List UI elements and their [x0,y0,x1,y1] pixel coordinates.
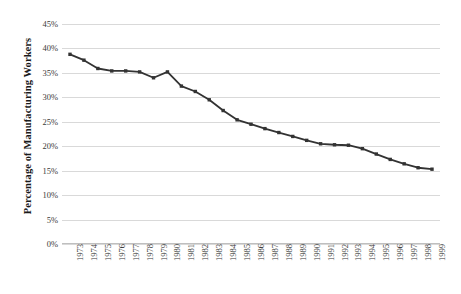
data-point-marker [305,139,308,142]
data-point-marker [263,127,266,130]
x-axis-tick-label: 1996 [394,244,406,290]
data-point-marker [389,158,392,161]
x-axis-tick-label: 1992 [339,244,351,290]
x-axis-tick-label: 1978 [144,244,156,290]
data-point-marker [291,135,294,138]
x-axis-tick-label: 1994 [366,244,378,290]
x-axis-tick-label: 1981 [185,244,197,290]
data-point-marker [124,69,127,72]
y-axis-tick-label: 5% [18,215,58,225]
y-axis-tick-label: 35% [18,68,58,78]
data-point-marker [333,143,336,146]
y-axis-tick-label: 20% [18,141,58,151]
data-point-marker [402,162,405,165]
data-point-marker [166,70,169,73]
data-point-marker [68,53,71,56]
data-point-marker [347,144,350,147]
x-axis-tick-label: 1988 [283,244,295,290]
data-point-marker [235,118,238,121]
y-axis-tick-label: 0% [18,239,58,249]
data-point-marker [221,109,224,112]
x-axis-tick-label: 1979 [158,244,170,290]
x-axis-tick-label: 1980 [171,244,183,290]
x-axis-tick-label: 1989 [297,244,309,290]
x-axis-tick-label: 1985 [241,244,253,290]
x-axis-tick-label: 1998 [422,244,434,290]
y-axis-tick-label: 30% [18,92,58,102]
x-axis-tick-label: 1987 [269,244,281,290]
data-point-marker [319,142,322,145]
x-axis-tick-label: 1982 [199,244,211,290]
x-axis-tick-label: 1975 [102,244,114,290]
chart-container: Percentage of Manufacturing Workers 45%4… [0,0,461,294]
data-point-marker [416,166,419,169]
x-axis-tick-label: 1999 [436,244,448,290]
y-axis-tick-label: 25% [18,117,58,127]
data-point-marker [277,131,280,134]
data-point-marker [96,67,99,70]
x-axis-tick-label: 1974 [88,244,100,290]
y-axis-tick-label: 40% [18,43,58,53]
data-point-marker [361,147,364,150]
data-point-marker [138,70,141,73]
data-point-marker [375,152,378,155]
x-axis-tick-labels: 1973197419751976197719781979198019811982… [62,246,440,292]
data-point-marker [110,69,113,72]
y-axis-tick-labels: 45%40%35%30%25%20%15%10%5%0% [14,24,58,244]
data-point-marker [208,98,211,101]
data-point-marker [430,168,433,171]
x-axis-tick-label: 1990 [311,244,323,290]
data-point-marker [249,123,252,126]
x-axis-tick-label: 1986 [255,244,267,290]
x-axis-tick-label: 1984 [227,244,239,290]
data-point-marker [180,84,183,87]
x-axis-tick-label: 1973 [74,244,86,290]
data-point-marker [82,58,85,61]
y-axis-tick-label: 10% [18,190,58,200]
y-axis-tick-label: 15% [18,166,58,176]
x-axis-tick-label: 1995 [380,244,392,290]
x-axis-tick-label: 1977 [130,244,142,290]
data-point-marker [152,76,155,79]
x-axis-tick-label: 1983 [213,244,225,290]
y-axis-tick-label: 45% [18,19,58,29]
x-axis-tick-label: 1991 [325,244,337,290]
plot-area [62,24,440,244]
data-series-line [62,24,440,244]
x-axis-tick-label: 1997 [408,244,420,290]
x-axis-tick-label: 1993 [352,244,364,290]
data-point-marker [194,90,197,93]
x-axis-tick-label: 1976 [116,244,128,290]
